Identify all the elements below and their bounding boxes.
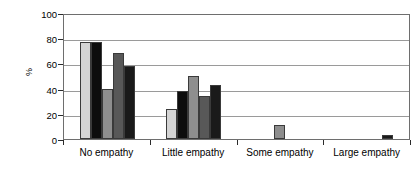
- bar-slot: [285, 15, 296, 139]
- bar-slot: [296, 15, 307, 139]
- x-axis-category-label: Little empathy: [150, 146, 237, 164]
- bar-group: [64, 15, 150, 139]
- bar-slot: [274, 15, 285, 139]
- bar[interactable]: [188, 76, 199, 139]
- bar[interactable]: [177, 91, 188, 139]
- bar[interactable]: [80, 42, 91, 139]
- bar-group: [150, 15, 236, 139]
- bar[interactable]: [166, 109, 177, 139]
- bar-slot: [349, 15, 360, 139]
- bar[interactable]: [199, 96, 210, 139]
- bar[interactable]: [274, 125, 285, 139]
- y-axis-tick-label: 20: [29, 109, 57, 120]
- x-axis-category-labels: No empathyLittle empathySome empathyLarg…: [63, 146, 410, 164]
- bar[interactable]: [210, 85, 221, 139]
- x-axis-tick-mark: [237, 140, 238, 145]
- bar[interactable]: [113, 53, 124, 139]
- plot-area: [63, 14, 410, 140]
- x-axis-tick-mark: [63, 140, 64, 145]
- bar-slot: [338, 15, 349, 139]
- bar-slot: [188, 15, 199, 139]
- x-axis-category-label: Large empathy: [323, 146, 410, 164]
- bar[interactable]: [382, 135, 393, 139]
- bar-slot: [166, 15, 177, 139]
- bar-slot: [360, 15, 371, 139]
- y-axis-tick-mark: [58, 90, 63, 91]
- y-axis-tick-label: 60: [29, 59, 57, 70]
- plot-inner: [64, 15, 409, 139]
- bar-groups: [64, 15, 409, 139]
- y-axis-tick-mark: [58, 64, 63, 65]
- x-axis-category-label: Some empathy: [237, 146, 324, 164]
- y-axis-tick-mark: [58, 14, 63, 15]
- x-axis-tick-mark: [150, 140, 151, 145]
- bar-slot: [80, 15, 91, 139]
- bar-slot: [113, 15, 124, 139]
- y-axis-tick-label: 80: [29, 34, 57, 45]
- bar-group: [323, 15, 409, 139]
- x-axis-tick-mark: [410, 140, 411, 145]
- bar-slot: [382, 15, 393, 139]
- bar-slot: [252, 15, 263, 139]
- y-axis-tick-mark: [58, 115, 63, 116]
- y-axis-tick-label: 40: [29, 84, 57, 95]
- bar-chart: % 020406080100 No empathyLittle empathyS…: [0, 0, 419, 172]
- bar[interactable]: [124, 66, 135, 139]
- bar-slot: [199, 15, 210, 139]
- bar-slot: [210, 15, 221, 139]
- bar[interactable]: [102, 89, 113, 139]
- bar-slot: [263, 15, 274, 139]
- bar-slot: [177, 15, 188, 139]
- x-axis-category-label: No empathy: [63, 146, 150, 164]
- bar-slot: [102, 15, 113, 139]
- bar-slot: [91, 15, 102, 139]
- y-axis-tick-label: 0: [29, 135, 57, 146]
- bar-group: [237, 15, 323, 139]
- x-axis-tick-mark: [323, 140, 324, 145]
- bar[interactable]: [91, 42, 102, 139]
- bar-slot: [371, 15, 382, 139]
- bar-slot: [124, 15, 135, 139]
- y-axis-tick-mark: [58, 39, 63, 40]
- y-axis-tick-label: 100: [29, 9, 57, 20]
- y-axis-tick-labels: 020406080100: [29, 0, 57, 172]
